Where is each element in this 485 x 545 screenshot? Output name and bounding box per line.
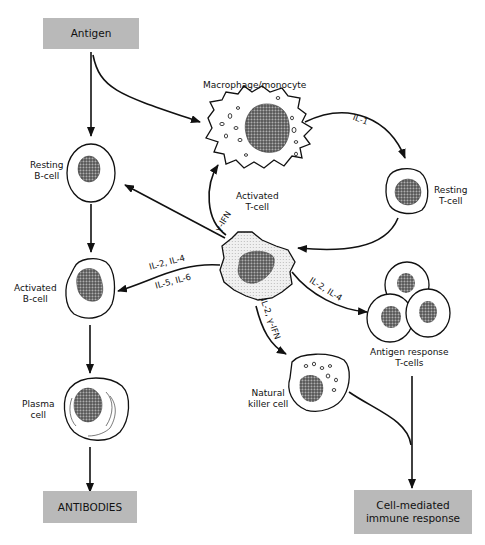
arrow-antigen-to-macrophage [93,55,200,122]
activated-t-label: Activated T-cell [236,191,279,213]
resting-b-label: Resting B-cell [30,160,64,182]
cell-mediated-box: Cell-mediated immune response [354,490,472,534]
antibodies-box: ANTIBODIES [43,491,137,523]
plasma-cell [64,378,128,440]
antigen-response-label: Antigen response T-cells [370,347,449,369]
antigen-label: Antigen [71,27,112,40]
activated-b-cell [66,259,115,318]
activated-t-cell [220,232,295,300]
nk-label: Natural killer cell [248,388,288,410]
natural-killer-cell [289,354,349,411]
macrophage-cell [206,86,312,168]
immune-response-diagram: Antigen ANTIBODIES Cell-mediated immune … [0,0,485,545]
antigen-box: Antigen [43,18,139,49]
resting-t-label: Resting T-cell [434,185,468,207]
cmi-label-line1: Cell-mediated [376,499,449,512]
line-nk-to-cmi [349,392,411,445]
arrow-resting-t-to-activated-t [298,218,398,250]
plasma-label: Plasma cell [22,399,54,421]
macrophage-label: Macrophage/monocyte [203,80,306,91]
activated-b-label: Activated B-cell [14,283,57,305]
cmi-label-line2: immune response [366,512,460,525]
antibodies-label: ANTIBODIES [58,501,122,514]
resting-b-cell [67,144,115,202]
antigen-response-t-cells [367,262,450,342]
resting-t-cell [386,169,428,214]
